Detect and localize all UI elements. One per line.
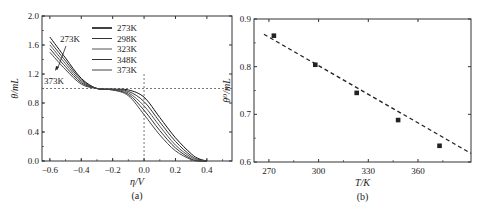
x-tick-label: −0.4 bbox=[73, 165, 90, 175]
chart-b: 2703003303600.60.70.80.9T/Kθ⁰/mL(b) bbox=[221, 14, 471, 203]
figure: −0.6−0.4−0.20.00.20.40.00.40.81.21.62.0η… bbox=[0, 0, 479, 211]
data-point bbox=[437, 143, 442, 148]
x-tick-label: 0.0 bbox=[138, 165, 150, 175]
x-tick-label: 360 bbox=[411, 166, 425, 176]
annotation-273K: 273K bbox=[60, 34, 81, 44]
x-axis-title: T/K bbox=[355, 177, 371, 188]
data-point bbox=[354, 91, 359, 96]
y-tick-label: 2.0 bbox=[28, 11, 40, 21]
legend-label: 373K bbox=[117, 65, 138, 75]
data-point bbox=[272, 33, 277, 38]
y-tick-label: 0.6 bbox=[240, 157, 252, 167]
data-point bbox=[313, 62, 318, 67]
y-tick-label: 0.8 bbox=[28, 98, 40, 108]
x-tick-label: 0.4 bbox=[201, 165, 213, 175]
chart-a: −0.6−0.4−0.20.00.20.40.00.40.81.21.62.0η… bbox=[9, 11, 232, 202]
legend-label: 273K bbox=[117, 23, 138, 33]
y-tick-label: 1.2 bbox=[28, 69, 39, 79]
fit-line bbox=[264, 34, 471, 153]
y-axis-title: θ/mL bbox=[9, 78, 20, 99]
legend-label: 323K bbox=[117, 44, 138, 54]
y-tick-label: 0.4 bbox=[28, 127, 40, 137]
y-axis-title: θ⁰/mL bbox=[221, 78, 232, 103]
x-tick-label: −0.6 bbox=[42, 165, 59, 175]
y-tick-label: 0.7 bbox=[240, 109, 252, 119]
data-point bbox=[396, 118, 401, 123]
x-tick-label: 330 bbox=[362, 166, 376, 176]
legend-label: 348K bbox=[117, 55, 138, 65]
x-axis-title: η/V bbox=[130, 176, 146, 187]
x-tick-label: 270 bbox=[262, 166, 276, 176]
x-tick-label: 300 bbox=[312, 166, 326, 176]
y-tick-label: 1.6 bbox=[28, 40, 40, 50]
panel-caption: (a) bbox=[131, 190, 142, 202]
y-tick-label: 0.9 bbox=[240, 14, 252, 24]
annotation-373K: 373K bbox=[44, 76, 65, 86]
y-tick-label: 0.0 bbox=[28, 156, 40, 166]
legend-label: 298K bbox=[117, 34, 138, 44]
panel-caption: (b) bbox=[357, 191, 369, 203]
x-tick-label: 0.2 bbox=[170, 165, 181, 175]
x-tick-label: −0.2 bbox=[104, 165, 120, 175]
y-tick-label: 0.8 bbox=[240, 62, 252, 72]
